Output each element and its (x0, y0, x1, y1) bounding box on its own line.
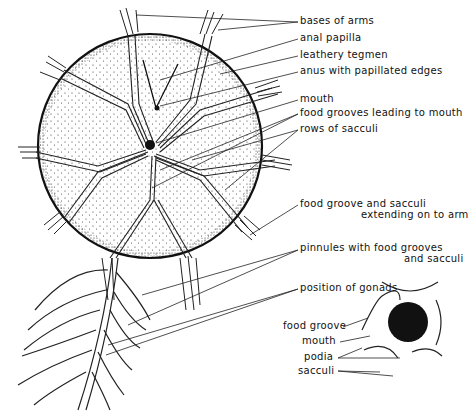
label-anal-papilla: anal papilla (300, 32, 361, 43)
mouth-detail-inset (338, 282, 442, 376)
label-rows-sacculi: rows of sacculi (300, 123, 378, 134)
inset-label-podia: podia (304, 351, 333, 362)
label-food-groove-sacculi: food groove and sacculi (300, 198, 426, 209)
label-bases-of-arms: bases of arms (300, 15, 374, 26)
label-gonads: position of gonads (300, 282, 398, 293)
inset-label-food-groove: food groove (283, 320, 346, 331)
arm-with-pinnules (18, 258, 150, 410)
label-leathery-tegmen: leathery tegmen (300, 49, 388, 60)
label-pinnules: pinnules with food grooves (300, 242, 443, 253)
label-anus: anus with papillated edges (300, 65, 442, 76)
label-food-grooves-mouth: food grooves leading to mouth (300, 107, 463, 118)
mouth-center (145, 140, 155, 150)
inset-label-mouth: mouth (302, 335, 336, 346)
label-pinnules-cont: and sacculi (404, 253, 464, 264)
label-food-groove-sacculi-cont: extending on to arm (361, 209, 469, 220)
label-mouth: mouth (300, 93, 334, 104)
inset-label-sacculi: sacculi (298, 365, 334, 376)
